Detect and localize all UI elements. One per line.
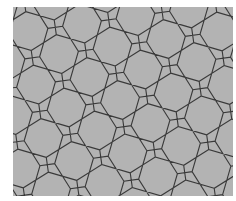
cairo-tiling-canvas [0,0,236,201]
